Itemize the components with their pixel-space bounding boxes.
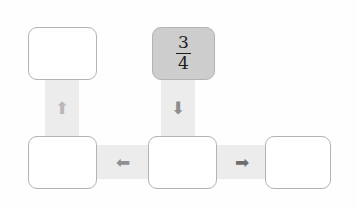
node-bottom-left[interactable] — [28, 136, 97, 189]
fraction-three-quarters: 3 4 — [175, 34, 192, 73]
diagram-canvas: ⬆ ⬇ ⬅ ➡ 3 4 — [0, 0, 357, 208]
arrow-right-icon: ➡ — [212, 145, 272, 179]
node-top-left[interactable] — [28, 27, 97, 80]
fraction-denominator: 4 — [175, 54, 192, 73]
fraction-numerator: 3 — [175, 34, 192, 53]
node-bottom-center[interactable] — [148, 136, 217, 189]
arrow-down-icon: ⬇ — [161, 74, 195, 142]
node-top-center[interactable]: 3 4 — [152, 27, 215, 80]
arrow-left-icon: ⬅ — [92, 145, 154, 179]
arrow-up-icon: ⬆ — [45, 74, 79, 142]
node-bottom-right[interactable] — [265, 136, 331, 189]
